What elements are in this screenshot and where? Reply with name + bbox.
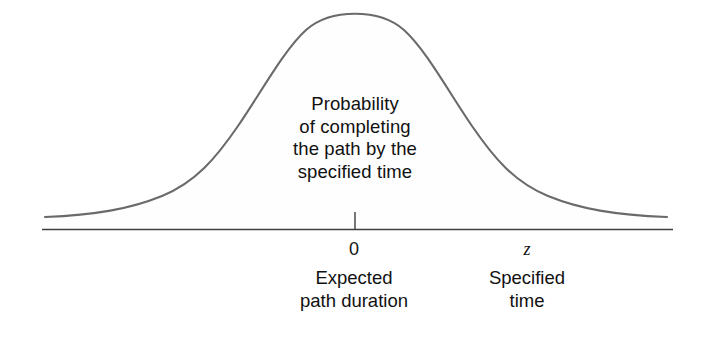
x-tick-label-zero: 0 — [294, 238, 414, 260]
annotation-line-1: Probability — [205, 93, 505, 116]
expected-caption-line-2: path duration — [254, 289, 454, 312]
specified-caption-line-1: Specified — [442, 266, 612, 289]
annotation-line-3: the path by the — [205, 138, 505, 161]
specified-caption-line-2: time — [442, 289, 612, 312]
probability-annotation: Probability of completing the path by th… — [205, 93, 505, 183]
normal-distribution-figure: Probability of completing the path by th… — [0, 0, 707, 340]
x-tick-label-z: z — [467, 238, 587, 260]
annotation-line-2: of completing — [205, 116, 505, 139]
expected-caption-line-1: Expected — [254, 266, 454, 289]
caption-specified-time: Specified time — [442, 266, 612, 312]
annotation-line-4: specified time — [205, 161, 505, 184]
caption-expected-path-duration: Expected path duration — [254, 266, 454, 312]
